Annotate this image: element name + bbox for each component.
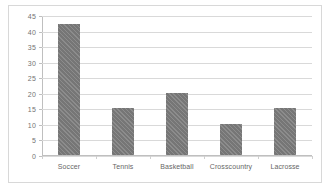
y-axis-tick-mark	[39, 140, 42, 141]
gridline	[42, 32, 312, 33]
y-axis-tick-mark	[39, 94, 42, 95]
y-axis-tick-mark	[39, 125, 42, 126]
y-axis-line	[42, 16, 43, 156]
x-axis-label-basketball: Basketball	[160, 163, 193, 170]
y-axis-tick-label: 10	[28, 121, 36, 128]
x-axis-tick-mark	[150, 156, 151, 159]
x-axis-tick-mark	[258, 156, 259, 159]
y-axis-tick-mark	[39, 78, 42, 79]
x-axis-tick-mark	[204, 156, 205, 159]
x-axis-label-lacrosse: Lacrosse	[270, 163, 299, 170]
y-axis-tick-label: 15	[28, 106, 36, 113]
bar-lacrosse[interactable]	[274, 108, 296, 155]
y-axis-tick-label: 25	[28, 75, 36, 82]
bar-tennis[interactable]	[112, 108, 134, 155]
y-axis-tick-mark	[39, 47, 42, 48]
gridline	[42, 156, 312, 157]
gridline	[42, 47, 312, 48]
gridline	[42, 78, 312, 79]
gridline	[42, 16, 312, 17]
y-axis-tick-mark	[39, 16, 42, 17]
plot-area: 051015202530354045 SoccerTennisBasketbal…	[42, 16, 312, 156]
y-axis-tick-mark	[39, 63, 42, 64]
x-axis-tick-mark	[42, 156, 43, 159]
y-axis-tick-label: 5	[32, 137, 36, 144]
chart-frame: 051015202530354045 SoccerTennisBasketbal…	[8, 5, 322, 183]
x-axis-label-soccer: Soccer	[58, 163, 80, 170]
bar-basketball[interactable]	[166, 93, 188, 155]
y-axis-tick-label: 20	[28, 90, 36, 97]
bar-soccer[interactable]	[58, 24, 80, 155]
y-axis-tick-label: 45	[28, 13, 36, 20]
x-axis-tick-mark	[312, 156, 313, 159]
x-axis-tick-mark	[96, 156, 97, 159]
gridline	[42, 63, 312, 64]
y-axis-tick-label: 35	[28, 44, 36, 51]
y-axis-tick-mark	[39, 109, 42, 110]
y-axis-tick-label: 30	[28, 59, 36, 66]
y-axis-tick-label: 40	[28, 28, 36, 35]
y-axis-tick-label: 0	[32, 153, 36, 160]
x-axis-label-crosscountry: Crosscountry	[210, 163, 252, 170]
x-axis-label-tennis: Tennis	[113, 163, 134, 170]
bar-crosscountry[interactable]	[220, 124, 242, 155]
y-axis-tick-mark	[39, 32, 42, 33]
